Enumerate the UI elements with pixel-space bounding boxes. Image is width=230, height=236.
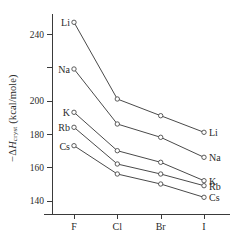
- data-point-k: [115, 149, 119, 153]
- y-axis-tick-label: 240: [30, 30, 44, 40]
- data-point-k: [202, 179, 206, 183]
- series-label-right-rb: Rb: [209, 180, 221, 191]
- y-axis-title-symbol: H: [7, 141, 18, 149]
- x-axis-tick-label: F: [71, 221, 77, 232]
- x-axis-tick: [204, 214, 205, 219]
- series-label-left-cs: Cs: [59, 140, 70, 151]
- x-axis-tick: [74, 214, 75, 219]
- data-point-cs: [115, 172, 119, 176]
- x-axis-tick-label: Cl: [113, 221, 122, 232]
- y-axis-title-prefix: −Δ: [7, 149, 18, 162]
- data-point-k: [72, 110, 76, 114]
- series-lines-layer: [52, 14, 212, 214]
- y-axis-title-units: (kcal/mole): [7, 74, 18, 126]
- data-point-rb: [115, 162, 119, 166]
- data-point-cs: [72, 144, 76, 148]
- data-point-na: [159, 135, 163, 139]
- y-axis-title: −ΔHcryst (kcal/mole): [7, 74, 19, 161]
- series-label-left-rb: Rb: [58, 122, 70, 133]
- plot-area: 140160180200240 FClBrI LiLiNaNaKKRbRbCsC…: [52, 14, 212, 214]
- data-point-cs: [159, 182, 163, 186]
- y-axis-tick-label: 200: [30, 96, 44, 106]
- data-point-na: [115, 122, 119, 126]
- data-point-rb: [202, 184, 206, 188]
- series-label-left-k: K: [63, 107, 70, 118]
- x-axis-tick: [161, 214, 162, 219]
- y-axis-title-container: −ΔHcryst (kcal/mole): [0, 0, 26, 236]
- series-label-right-li: Li: [209, 127, 218, 138]
- data-point-cs: [202, 195, 206, 199]
- x-axis-tick: [117, 214, 118, 219]
- series-line-cs: [74, 146, 204, 198]
- data-point-na: [72, 67, 76, 71]
- y-axis-tick-label: 160: [30, 163, 44, 173]
- series-label-left-na: Na: [58, 64, 70, 75]
- data-point-li: [115, 97, 119, 101]
- series-line-k: [74, 112, 204, 180]
- x-axis-tick-label: I: [202, 221, 205, 232]
- data-point-li: [159, 114, 163, 118]
- series-label-right-cs: Cs: [209, 192, 220, 203]
- lattice-energy-chart: −ΔHcryst (kcal/mole) 140160180200240 FCl…: [0, 0, 230, 236]
- data-point-na: [202, 155, 206, 159]
- series-label-left-li: Li: [61, 17, 70, 28]
- data-point-li: [202, 130, 206, 134]
- series-line-li: [74, 22, 204, 132]
- series-label-right-na: Na: [209, 152, 221, 163]
- x-axis-tick-label: Br: [156, 221, 166, 232]
- data-point-rb: [72, 125, 76, 129]
- y-axis-tick-label: 140: [30, 196, 44, 206]
- y-axis-tick-label: 180: [30, 130, 44, 140]
- y-axis-title-subscript: cryst: [11, 127, 19, 142]
- data-point-k: [159, 160, 163, 164]
- x-axis-line: [44, 214, 230, 215]
- data-point-li: [72, 20, 76, 24]
- data-point-rb: [159, 172, 163, 176]
